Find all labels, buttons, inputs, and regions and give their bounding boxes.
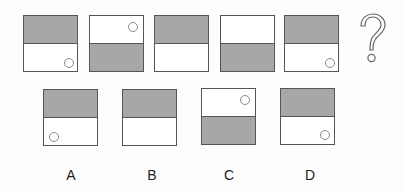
shaded-half [202,117,255,145]
question-mark-icon [356,12,388,68]
circle-icon [320,130,330,140]
option-a-label[interactable]: A [61,167,81,183]
shaded-half [155,16,208,44]
sequence-figure-5 [284,15,339,72]
option-b-figure[interactable] [122,89,177,146]
sequence-figure-4 [220,15,275,72]
shaded-half [221,44,274,72]
option-d-label[interactable]: D [300,167,320,183]
option-c-label[interactable]: C [219,167,239,183]
shaded-half [44,90,97,118]
circle-icon [64,58,74,68]
circle-icon [128,22,138,32]
sequence-figure-1 [23,15,78,72]
white-half [123,118,176,146]
shaded-half [285,16,338,44]
shaded-half [281,89,334,117]
option-a-figure[interactable] [43,89,98,146]
sequence-figure-3 [154,15,209,72]
option-d-figure[interactable] [280,88,335,145]
option-c-figure[interactable] [201,88,256,145]
shaded-half [24,16,77,44]
shaded-half [123,90,176,118]
shaded-half [90,44,143,72]
circle-icon [240,95,250,105]
sequence-figure-2 [89,15,144,72]
white-half [221,16,274,44]
white-half [155,44,208,72]
circle-icon [325,58,335,68]
circle-icon [49,132,59,142]
option-b-label[interactable]: B [142,167,162,183]
